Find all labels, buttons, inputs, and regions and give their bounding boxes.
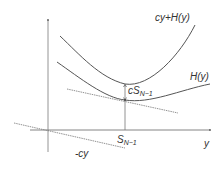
tangent-point (124, 99, 126, 101)
label-upper-curve: cy+H(y) (155, 13, 190, 23)
label-gap-sub: N−1 (140, 90, 153, 97)
label-upper-curve-text: cy+H(y) (155, 12, 190, 23)
curve-cy-plus-h (60, 25, 195, 84)
label-lower-curve-text: H(y) (190, 71, 209, 82)
label-neg-cy-text: -cy (75, 148, 88, 159)
horizontal-axis-tip (209, 129, 211, 131)
label-lower-curve: H(y) (190, 72, 209, 82)
tangent-line (67, 89, 178, 113)
label-x-axis: y (204, 139, 209, 149)
diagram-canvas: cy+H(y) H(y) cSN−1 SN−1 y -cy (0, 0, 224, 169)
neg-cy-line (14, 123, 125, 148)
label-gap-text: cS (128, 85, 140, 96)
label-neg-cy: -cy (75, 149, 88, 159)
label-x-axis-text: y (204, 138, 209, 149)
label-x-tick: SN−1 (117, 135, 137, 146)
diagram-svg (0, 0, 224, 169)
label-gap: cSN−1 (128, 86, 153, 97)
label-x-tick-sub: N−1 (124, 139, 137, 146)
vertical-axis-tip (47, 19, 49, 21)
label-x-tick-text: S (117, 134, 124, 145)
